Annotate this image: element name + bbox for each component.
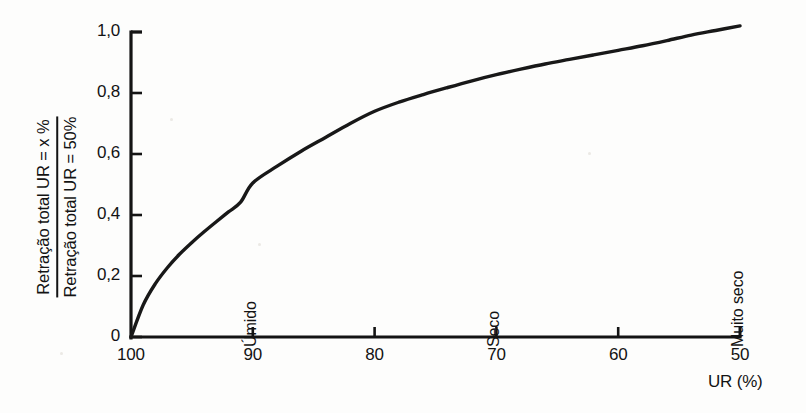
x-axis-tick-label: 100 bbox=[103, 345, 159, 365]
y-axis-tick-label: 1,0 bbox=[74, 21, 120, 41]
y-axis-ticks bbox=[131, 32, 142, 337]
x-axis-tick-label: 60 bbox=[590, 345, 646, 365]
y-axis-tick-label: 0,2 bbox=[74, 265, 120, 285]
y-axis-tick-label: 0,4 bbox=[74, 204, 120, 224]
region-annotation-label: Seco bbox=[485, 311, 503, 347]
x-axis-tick-label: 90 bbox=[225, 345, 281, 365]
region-annotation-label: Úmido bbox=[242, 301, 260, 347]
y-axis-tick-label: 0,6 bbox=[74, 143, 120, 163]
x-axis-tick-label: 80 bbox=[347, 345, 403, 365]
x-axis-tick-label: 50 bbox=[712, 345, 768, 365]
y-axis-tick-label: 0 bbox=[74, 326, 120, 346]
x-axis-title: UR (%) bbox=[708, 372, 763, 392]
chart-figure: Retração total UR = x % Retração total U… bbox=[0, 0, 806, 413]
data-curve bbox=[131, 26, 740, 337]
x-axis-tick-label: 70 bbox=[468, 345, 524, 365]
y-axis-tick-label: 0,8 bbox=[74, 82, 120, 102]
region-annotation-label: Muito seco bbox=[729, 271, 747, 347]
